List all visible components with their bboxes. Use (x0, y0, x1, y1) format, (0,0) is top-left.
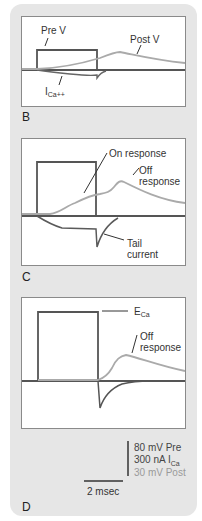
scale-pre-label: 80 mV Pre (134, 442, 181, 454)
panel-d-label: D (22, 500, 31, 514)
scale-post-label: 30 mV Post (134, 467, 186, 479)
scale-time-label: 2 msec (87, 486, 119, 498)
